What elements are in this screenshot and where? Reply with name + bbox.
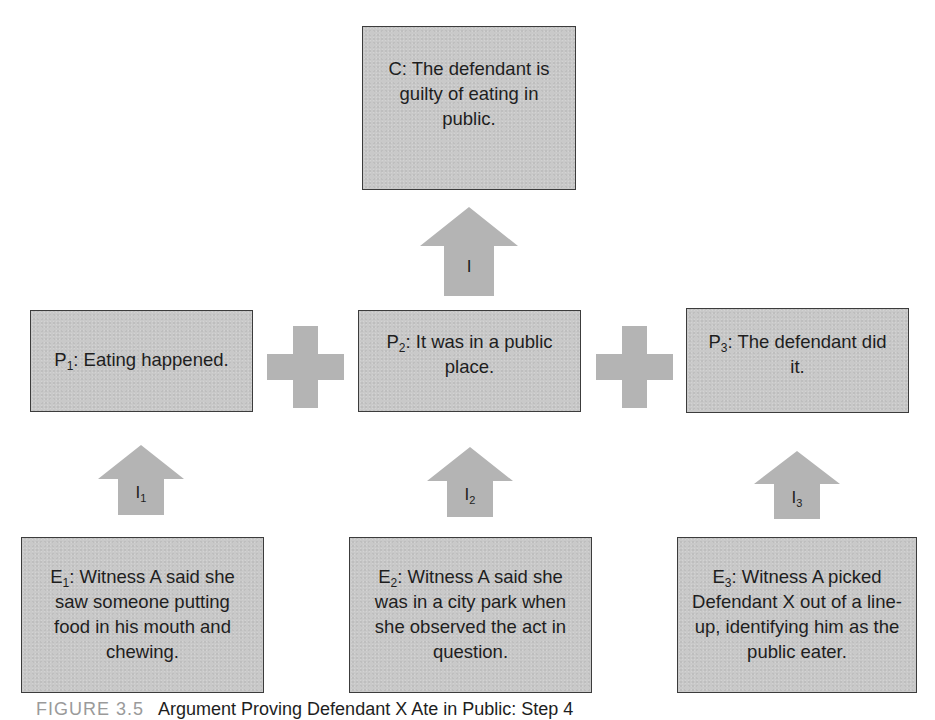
up-arrow-icon [98, 445, 184, 515]
proposition-box-1: P1: Eating happened. [30, 310, 253, 412]
inference-arrow-1: I1 [98, 445, 184, 515]
inference-label: I3 [754, 488, 840, 508]
proposition-body: : The defendant did it. [727, 331, 886, 377]
inference-label: I2 [427, 485, 513, 505]
evidence-box-1: E1: Witness A said she saw someone putti… [21, 537, 264, 693]
evidence-prefix: E [50, 566, 62, 587]
evidence-prefix: E [378, 566, 390, 587]
evidence-prefix: E [712, 566, 724, 587]
plus-icon [596, 326, 673, 408]
proposition-body: : It was in a public place. [405, 331, 552, 377]
conclusion-text: C: The defendant is guilty of eating in … [377, 56, 561, 131]
proposition-body: : Eating happened. [73, 349, 228, 370]
inference-subscript: 1 [140, 492, 146, 504]
evidence-text-2: E2: Witness A said she was in a city par… [364, 564, 577, 664]
proposition-text-1: P1: Eating happened. [54, 347, 228, 372]
evidence-body: : Witness A said she was in a city park … [375, 566, 566, 662]
inference-arrow-3: I3 [754, 451, 840, 519]
up-arrow-icon [427, 447, 513, 517]
figure-label: FIGURE 3.5 [36, 699, 144, 719]
proposition-box-3: P3: The defendant did it. [686, 308, 909, 413]
evidence-box-3: E3: Witness A picked Defendant X out of … [677, 537, 917, 693]
proposition-prefix: P [386, 331, 398, 352]
proposition-prefix: P [708, 331, 720, 352]
evidence-text-1: E1: Witness A said she saw someone putti… [36, 564, 249, 664]
inference-subscript: 2 [469, 494, 475, 506]
inference-label: I [420, 257, 518, 277]
conclusion-body: : The defendant is guilty of eating in p… [400, 58, 550, 129]
inference-label-text: I [467, 257, 472, 276]
inference-arrow-conclusion: I [420, 207, 518, 296]
figure-caption: FIGURE 3.5Argument Proving Defendant X A… [36, 699, 573, 720]
inference-label: I1 [98, 483, 184, 503]
proposition-box-2: P2: It was in a public place. [358, 310, 581, 412]
plus-icon [267, 326, 344, 408]
proposition-text-2: P2: It was in a public place. [377, 329, 562, 379]
proposition-prefix: P [54, 349, 66, 370]
evidence-text-3: E3: Witness A picked Defendant X out of … [690, 564, 904, 664]
evidence-box-2: E2: Witness A said she was in a city par… [349, 537, 592, 693]
inference-subscript: 3 [796, 497, 802, 509]
conclusion-box: C: The defendant is guilty of eating in … [362, 26, 576, 190]
up-arrow-icon [420, 207, 518, 296]
caption-text: Argument Proving Defendant X Ate in Publ… [158, 699, 573, 719]
evidence-body: : Witness A said she saw someone putting… [54, 566, 235, 662]
proposition-text-3: P3: The defendant did it. [705, 329, 890, 379]
inference-arrow-2: I2 [427, 447, 513, 517]
conclusion-prefix: C [388, 58, 401, 79]
